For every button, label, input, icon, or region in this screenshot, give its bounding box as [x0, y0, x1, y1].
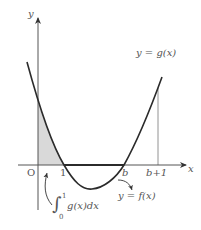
y-axis-label: y [28, 9, 34, 19]
tick-label-b: b [122, 168, 128, 178]
g-curve-label: y = g(x) [136, 48, 176, 58]
integral-sign: ∫ [52, 195, 61, 213]
f-pointer-arrow [118, 180, 132, 190]
integral-label: ∫ 1 0 g(x)dx [52, 193, 132, 223]
integral-body: g(x)dx [67, 201, 99, 211]
g-curve [27, 62, 162, 189]
integral-lower-limit: 0 [59, 214, 63, 221]
tick-label-b-plus-1: b+1 [146, 168, 167, 178]
integral-upper-limit: 1 [62, 193, 66, 200]
tick-label-1: 1 [60, 168, 66, 178]
integral-pointer-arrow [45, 173, 52, 205]
x-axis-label: x [188, 164, 194, 174]
origin-label: O [27, 168, 35, 178]
